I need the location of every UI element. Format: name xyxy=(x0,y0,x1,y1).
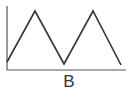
triangle-wave-line xyxy=(7,11,121,65)
graph-label: B xyxy=(61,72,77,92)
